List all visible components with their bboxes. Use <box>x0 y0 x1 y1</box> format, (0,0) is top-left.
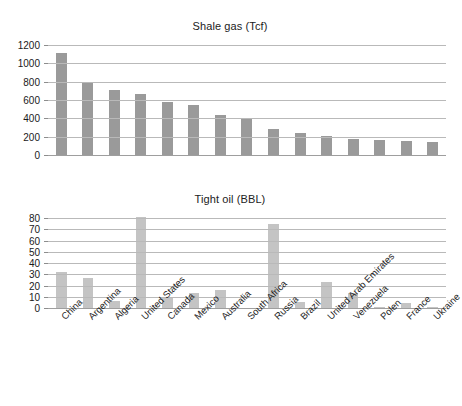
y-tick-mark <box>44 229 48 230</box>
y-tick-mark <box>44 252 48 253</box>
gridline <box>48 118 446 119</box>
gridline <box>48 45 446 46</box>
y-tick-mark <box>44 308 48 309</box>
y-tick-label: 10 <box>0 291 40 302</box>
gridline <box>48 218 446 219</box>
gridline <box>48 241 446 242</box>
y-tick-mark <box>44 218 48 219</box>
y-tick-label: 400 <box>0 113 40 124</box>
gridline <box>48 137 446 138</box>
gridline <box>48 155 446 156</box>
y-tick-mark <box>44 63 48 64</box>
y-tick-label: 200 <box>0 131 40 142</box>
y-tick-label: 80 <box>0 213 40 224</box>
y-tick-mark <box>44 45 48 46</box>
bar-russia <box>268 129 279 155</box>
bar-australia <box>215 115 226 155</box>
y-tick-label: 70 <box>0 224 40 235</box>
y-tick-label: 30 <box>0 269 40 280</box>
shale-gas-plot-area <box>48 45 446 155</box>
y-tick-mark <box>44 100 48 101</box>
y-tick-mark <box>44 82 48 83</box>
y-tick-label: 1200 <box>0 40 40 51</box>
bar-mexico <box>188 105 199 155</box>
bar-united-states <box>135 94 146 155</box>
y-tick-label: 40 <box>0 258 40 269</box>
y-tick-label: 600 <box>0 95 40 106</box>
gridline <box>48 100 446 101</box>
y-tick-mark <box>44 241 48 242</box>
y-tick-label: 0 <box>0 150 40 161</box>
bar-ukraine <box>427 142 438 155</box>
y-tick-mark <box>44 297 48 298</box>
bar-china <box>56 272 67 308</box>
bar-china <box>56 53 67 155</box>
y-tick-mark <box>44 263 48 264</box>
y-tick-label: 800 <box>0 76 40 87</box>
gridline <box>48 82 446 83</box>
gridline <box>48 63 446 64</box>
gridline <box>48 229 446 230</box>
gridline <box>48 274 446 275</box>
tight-oil-chart-title: Tight oil (BBL) <box>0 193 460 205</box>
y-tick-label: 1000 <box>0 58 40 69</box>
y-tick-mark <box>44 137 48 138</box>
bar-france <box>401 141 412 155</box>
bar-united-arab-emirates <box>321 136 332 155</box>
y-tick-label: 50 <box>0 246 40 257</box>
y-tick-mark <box>44 274 48 275</box>
tight-oil-chart-panel: Tight oil (BBL) 01020304050607080 ChinaA… <box>0 190 460 406</box>
bar-venezuela <box>348 139 359 156</box>
y-tick-label: 60 <box>0 235 40 246</box>
bar-polen <box>374 140 385 155</box>
category-axis-labels: ChinaArgentinaAlgeriaUnited StatesCanada… <box>0 312 460 402</box>
shale-gas-chart-panel: Shale gas (Tcf) 020040060080010001200 <box>0 0 460 175</box>
shale-gas-chart-title: Shale gas (Tcf) <box>0 20 460 32</box>
y-tick-label: 20 <box>0 280 40 291</box>
y-tick-mark <box>44 286 48 287</box>
y-tick-mark <box>44 155 48 156</box>
bar-canada <box>162 102 173 155</box>
y-tick-mark <box>44 118 48 119</box>
